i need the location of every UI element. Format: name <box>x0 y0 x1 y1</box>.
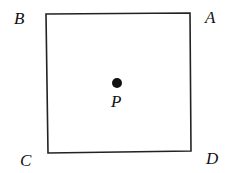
vertex-label-c: C <box>20 151 32 170</box>
vertex-label-d: D <box>205 149 219 168</box>
vertex-label-b: B <box>14 9 25 28</box>
square-diagram: B A C D P <box>0 0 228 173</box>
point-label-p: P <box>110 92 121 111</box>
vertex-label-a: A <box>204 8 216 27</box>
point-p-dot <box>112 78 122 88</box>
